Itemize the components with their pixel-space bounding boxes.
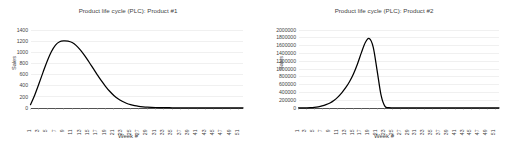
x-tick-label: 49 xyxy=(482,129,488,135)
x-tick-label: 9 xyxy=(325,129,331,132)
x-tick-label: 33 xyxy=(159,129,165,135)
x-tick-label: 13 xyxy=(76,129,82,135)
series-line xyxy=(31,41,244,108)
x-tick-label: 43 xyxy=(459,129,465,135)
x-tick-label: 3 xyxy=(34,129,40,132)
y-tick-label: 800 xyxy=(20,60,29,66)
x-tick-label: 25 xyxy=(126,129,132,135)
x-tick-label: 41 xyxy=(192,129,198,135)
series-line xyxy=(299,38,500,108)
y-tick-label: 1000 xyxy=(17,49,28,55)
plot-area: 0200000400000600000800000100000012000001… xyxy=(256,0,512,149)
x-tick-label: 15 xyxy=(349,129,355,135)
x-tick-label: 39 xyxy=(184,129,190,135)
y-tick-label: 600000 xyxy=(279,81,296,87)
x-tick-label: 7 xyxy=(317,129,323,132)
x-tick-label: 29 xyxy=(404,129,410,135)
plot-area: 0200400600800100012001400135791113151719… xyxy=(0,0,256,149)
y-tick-label: 400 xyxy=(20,82,29,88)
x-tick-label: 3 xyxy=(301,129,307,132)
x-tick-label: 19 xyxy=(364,129,370,135)
x-tick-label: 13 xyxy=(341,129,347,135)
x-tick-label: 39 xyxy=(443,129,449,135)
x-tick-label: 5 xyxy=(309,129,315,132)
y-tick-label: 1200000 xyxy=(276,58,296,64)
x-tick-label: 23 xyxy=(117,129,123,135)
x-tick-label: 47 xyxy=(474,129,480,135)
x-tick-label: 17 xyxy=(92,129,98,135)
x-tick-label: 19 xyxy=(101,129,107,135)
x-tick-label: 47 xyxy=(217,129,223,135)
y-tick-label: 600 xyxy=(20,71,29,77)
y-tick-label: 400000 xyxy=(279,89,296,95)
y-tick-label: 200 xyxy=(20,94,29,100)
x-tick-label: 45 xyxy=(209,129,215,135)
x-tick-label: 41 xyxy=(451,129,457,135)
x-tick-label: 31 xyxy=(411,129,417,135)
y-tick-label: 200000 xyxy=(279,97,296,103)
x-tick-label: 1 xyxy=(26,129,32,132)
x-tick-label: 17 xyxy=(356,129,362,135)
y-tick-label: 0 xyxy=(293,105,296,111)
x-tick-label: 51 xyxy=(490,129,496,135)
y-tick-label: 1400000 xyxy=(276,50,296,56)
y-tick-label: 1800000 xyxy=(276,34,296,40)
chart-panel-product-1: Product life cycle (PLC): Product #1 Sal… xyxy=(0,0,256,149)
x-tick-label: 9 xyxy=(59,129,65,132)
y-tick-label: 2000000 xyxy=(276,27,296,33)
x-tick-label: 7 xyxy=(51,129,57,132)
x-tick-label: 25 xyxy=(388,129,394,135)
x-tick-label: 21 xyxy=(372,129,378,135)
x-tick-label: 43 xyxy=(201,129,207,135)
x-tick-label: 23 xyxy=(380,129,386,135)
x-tick-label: 5 xyxy=(42,129,48,132)
x-tick-label: 37 xyxy=(176,129,182,135)
x-tick-label: 37 xyxy=(435,129,441,135)
x-tick-label: 27 xyxy=(134,129,140,135)
x-tick-label: 29 xyxy=(142,129,148,135)
y-tick-label: 1000000 xyxy=(276,66,296,72)
x-tick-label: 27 xyxy=(396,129,402,135)
y-tick-label: 1200 xyxy=(17,38,28,44)
x-tick-label: 49 xyxy=(226,129,232,135)
y-tick-label: 0 xyxy=(25,105,28,111)
charts-row: Product life cycle (PLC): Product #1 Sal… xyxy=(0,0,512,149)
x-tick-label: 15 xyxy=(84,129,90,135)
x-tick-label: 31 xyxy=(151,129,157,135)
y-tick-label: 800000 xyxy=(279,73,296,79)
y-tick-label: 1400 xyxy=(17,27,28,33)
x-tick-label: 1 xyxy=(294,129,300,132)
x-tick-label: 35 xyxy=(167,129,173,135)
x-tick-label: 11 xyxy=(333,129,339,134)
x-tick-label: 21 xyxy=(109,129,115,135)
x-tick-label: 35 xyxy=(427,129,433,135)
chart-panel-product-2: Product life cycle (PLC): Product #2 Sal… xyxy=(256,0,512,149)
x-tick-label: 33 xyxy=(419,129,425,135)
x-tick-label: 45 xyxy=(466,129,472,135)
y-tick-label: 1600000 xyxy=(276,42,296,48)
x-tick-label: 51 xyxy=(234,129,240,135)
x-tick-label: 11 xyxy=(67,129,73,134)
